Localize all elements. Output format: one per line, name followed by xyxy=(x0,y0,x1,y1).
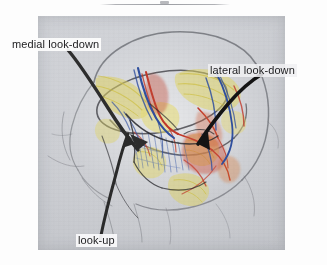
label-look-up: look-up xyxy=(76,234,117,247)
page-header-mark xyxy=(160,1,169,4)
label-lateral-look-down: lateral look-down xyxy=(208,64,297,77)
label-medial-look-down: medial look-down xyxy=(10,38,101,51)
anatomical-sketch xyxy=(38,16,285,250)
scanned-page: medial look-down lateral look-down look-… xyxy=(0,0,327,265)
page-header-rule xyxy=(100,4,230,5)
figure-panel xyxy=(38,16,285,250)
